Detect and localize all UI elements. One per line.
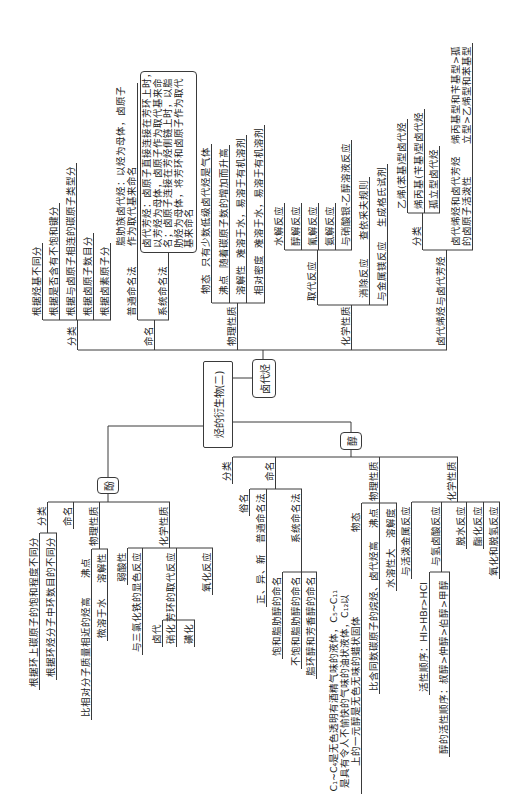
reactivity-order: 活性顺序：HI>HBr>HCl: [418, 572, 430, 695]
physical-property-item: 物态 只有少数低级卤代烃是气体: [200, 144, 212, 303]
haloalkane-classification: 分类: [66, 320, 78, 350]
node-label: 烯丙基(苄基)型卤代烃: [413, 112, 424, 209]
naming-item: 饱和脂肪醇的命名: [271, 572, 283, 659]
property-value: 难溶于水，易溶于有机溶剂: [253, 128, 264, 248]
node-label: 乙烯(苯基)型卤代烃: [396, 122, 407, 209]
node-label: 俗名: [238, 493, 249, 513]
node-label: 脱水反应: [455, 506, 466, 546]
node-detail: 正、异、新: [255, 554, 266, 604]
topic-label: 卤代烃: [257, 364, 272, 394]
property-value: C₁~C₄是无色透明有酒精气味的液体，C₅~C₁₁ 是具有令人不愉快的气味的油状…: [328, 590, 361, 792]
detail-line: 烯丙基型和苄基型>孤: [450, 46, 461, 144]
elimination-reaction: 消除反应 查依采夫规则: [358, 177, 370, 305]
reaction-item: 氰解反应: [307, 203, 319, 250]
detail-line: 立型>乙烯型和苯基型: [461, 46, 472, 144]
node-label: 醇解反应: [290, 206, 301, 246]
node-label: 弱酸性: [116, 552, 127, 582]
haloalkene-haloarene: 卤代烯烃与卤代芳烃: [435, 250, 447, 350]
phenol-classification: 分类: [36, 502, 48, 533]
reaction-item: 氧化反应: [201, 548, 213, 595]
substitution-item: 卤代: [151, 620, 163, 647]
boiling-point: 沸点 比含同数碳原子的烷烃、卤代烃高: [368, 503, 380, 694]
classification-item: 根据烃基不同分: [31, 243, 43, 320]
physical-state: 物态 C₁~C₄是无色透明有酒精气味的液体，C₅~C₁₁ 是具有令人不愉快的气味…: [327, 503, 362, 795]
node-label: 与氢卤酸反应: [430, 506, 441, 566]
property-value: 难溶于水，易溶于有机溶剂: [235, 138, 246, 258]
detail-line: 名；卤原子连接在芳烃侧链上时，以脂: [163, 76, 174, 248]
physical-property-item: 沸点 随着碳原子数的增加而升高: [218, 145, 230, 303]
property-value: 水溶性大: [385, 548, 396, 588]
haloalkane-chemical-properties: 化学性质: [340, 305, 352, 350]
node-label: 硝化: [165, 624, 176, 644]
node-label: 化学性质: [340, 306, 351, 346]
node-label: 化学性质: [446, 461, 457, 501]
node-label: 磺化: [183, 624, 194, 644]
classification-item: 孤立型卤代烃: [428, 146, 440, 213]
physical-property-item: 相对密度 难溶于水，易溶于有机溶剂: [253, 125, 265, 303]
classification-item: 根据环烃分子中环数目的不同分: [45, 533, 57, 680]
node-label: 普通命名法: [255, 493, 266, 543]
systematic-naming-detail-box: 卤代芳烃：卤原子直接连接在芳环上时， 以芳烃为母体，卤原子作为取代基来命 名；卤…: [140, 71, 197, 253]
reaction-item: 水解反应: [273, 203, 285, 250]
node-label: 芳环的取代反应: [165, 552, 176, 622]
topic-label: 醇: [344, 436, 359, 446]
node-label: 卤代: [151, 624, 162, 644]
reaction-item: 酯化反应: [472, 502, 484, 549]
reaction-item: 氧化和脱氢反应: [488, 502, 500, 579]
node-label: 分类: [221, 461, 232, 481]
node-detail: 查依采夫规则: [358, 180, 369, 240]
node-label: 与三氯化铁的显色反应: [131, 552, 142, 652]
hydrohalic-acid-reaction: 与氢卤酸反应: [430, 502, 442, 572]
node-label: 命名: [62, 506, 73, 526]
property-value: 微溶于水: [96, 598, 107, 638]
property-value: 比相对分子质量相近的烃高: [80, 597, 91, 717]
node-label: 物理性质: [88, 506, 99, 546]
haloalkane-physical-properties: 物理性质: [226, 303, 238, 350]
ring-substitution-reaction: 芳环的取代反应: [165, 548, 177, 620]
node-label: 卤代烯烃与卤代芳烃: [435, 256, 446, 346]
reaction-item: 与活泼金属反应: [400, 502, 412, 579]
node-label: 根据环烃分子中环数目的不同分: [45, 537, 56, 677]
classification-item: 烯丙基(苄基)型卤代烃: [413, 109, 425, 213]
topic-haloalkane: 卤代烃: [252, 359, 276, 398]
detail-line: 脂肪族卤代烃：以烃为母体，卤原子: [115, 86, 126, 246]
phenol-physical-properties: 物理性质: [88, 502, 100, 549]
reaction-item: 醇解反应: [290, 203, 302, 250]
property-value: 随着碳原子数的增加而升高: [218, 148, 229, 268]
halogen-reactivity: 卤代烯烃和卤代芳烃 的卤原子活泼性 烯丙基型和苄基型>孤 立型>乙烯型和苯基型: [449, 43, 473, 250]
detail-line: 上的一元醇是无色无味的蜡状固体: [350, 616, 361, 766]
node-label: 饱和脂肪醇的命名: [271, 576, 282, 656]
phenol-naming: 命名: [62, 502, 74, 529]
alcohol-physical-properties: 物理性质: [368, 457, 380, 503]
physical-property-item: 溶解性 难溶于水，易溶于有机溶剂: [235, 135, 247, 303]
property-name: 溶解性: [96, 553, 107, 583]
classification-item: 乙烯(苯基)型卤代烃: [396, 119, 408, 213]
naming-item: 不饱和脂肪醇的命名: [290, 572, 302, 669]
classification-item: 根据卤素原子分: [99, 243, 111, 320]
detail-text: 脂肪族卤代烃：以烃为母体，卤原子 作为取代基来命名: [115, 86, 137, 246]
node-label: 卤代烯烃和卤代芳烃 的卤原子活泼性: [450, 156, 472, 246]
systematic-naming: 系统命名法: [157, 253, 169, 320]
node-label: 与活泼金属反应: [400, 506, 411, 576]
node-label: 命名: [264, 461, 275, 481]
node-label: 与金属镁反应: [376, 241, 387, 301]
alcohol-classification: 分类: [221, 457, 233, 484]
common-naming: 普通命名法: [126, 250, 138, 320]
node-label: 分类: [411, 226, 422, 246]
node-label: 消除反应: [358, 258, 369, 298]
classification-item: 根据是否含有不饱和键分: [48, 203, 60, 320]
node-label: 氧化反应: [201, 552, 212, 592]
substitution-item: 磺化: [183, 620, 195, 647]
solubility: 溶解性 微溶于水: [96, 549, 108, 641]
node-label: 氨解反应: [324, 206, 335, 246]
reaction-item: 与硝酸银-乙醇溶液反应: [340, 140, 352, 250]
node-label: 根据环上碳原子的饱和程度不同分: [28, 537, 39, 687]
trivial-naming: 俗名: [238, 489, 250, 516]
node-label: 根据与卤原子相连的碳原子类型分: [65, 166, 76, 316]
property-name: 相对密度: [253, 255, 264, 295]
alcohol-naming: 命名: [264, 457, 276, 489]
root-label: 烃的衍生物(二): [211, 371, 226, 439]
substitution-item: 硝化: [165, 620, 177, 647]
reactivity-order: 醇的活性顺序：叔醇>仲醇>伯醇>甲醇: [438, 572, 450, 757]
label-line: 的卤原子活泼性: [461, 156, 472, 246]
